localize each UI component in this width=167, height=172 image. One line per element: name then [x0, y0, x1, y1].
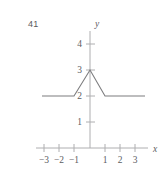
- y-tick-label-1: 1: [77, 117, 82, 127]
- x-tick-label--2: −2: [54, 155, 64, 165]
- figure-container: 41 −3 −2 −1 1 2 3 1 2 3: [0, 0, 167, 172]
- y-axis-label: y: [94, 19, 100, 29]
- y-tick-label-3: 3: [77, 65, 82, 75]
- x-axis-label: x: [152, 144, 158, 154]
- data-series-piecewise: [42, 70, 145, 96]
- x-tick-label-3: 3: [133, 155, 138, 165]
- x-tick-label--1: −1: [69, 155, 79, 165]
- plot-svg: −3 −2 −1 1 2 3 1 2 3 4 y x: [0, 0, 167, 172]
- y-tick-label-2: 2: [77, 91, 82, 101]
- x-tick-label--3: −3: [39, 155, 49, 165]
- x-tick-label-2: 2: [118, 155, 123, 165]
- x-tick-label-1: 1: [103, 155, 108, 165]
- y-tick-label-4: 4: [77, 39, 82, 49]
